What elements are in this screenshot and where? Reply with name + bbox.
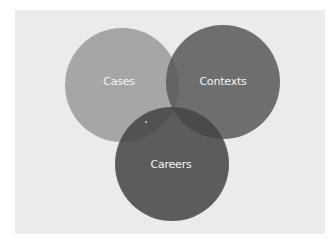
label-contexts: Contexts bbox=[199, 75, 247, 88]
speck-dot bbox=[145, 121, 147, 123]
label-cases: Cases bbox=[103, 75, 135, 88]
venn-diagram: Cases Contexts Careers bbox=[0, 0, 332, 242]
label-careers: Careers bbox=[150, 158, 192, 171]
venn-diagram-frame: Cases Contexts Careers bbox=[0, 0, 332, 242]
